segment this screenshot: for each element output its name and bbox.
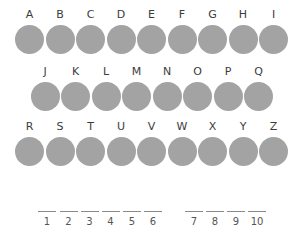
letter-tile-p[interactable]: P <box>214 66 243 112</box>
letter-tile-s[interactable]: S <box>46 121 75 167</box>
letter-disc[interactable] <box>76 137 105 166</box>
letter-disc[interactable] <box>168 137 197 166</box>
answer-blank-line <box>38 211 56 212</box>
answer-slot-9[interactable]: 9 <box>227 211 245 237</box>
answer-blank-line <box>185 211 203 212</box>
letter-label: Z <box>259 121 288 133</box>
letter-tile-u[interactable]: U <box>107 121 136 167</box>
letter-disc[interactable] <box>46 25 75 54</box>
letter-disc[interactable] <box>61 82 90 111</box>
answer-blank-line <box>123 211 141 212</box>
answer-blank-line <box>60 211 78 212</box>
letter-label: D <box>107 9 136 21</box>
letter-label: L <box>92 66 121 78</box>
letter-disc[interactable] <box>137 137 166 166</box>
letter-label: G <box>198 9 227 21</box>
letter-tile-r[interactable]: R <box>15 121 44 167</box>
letter-label: K <box>61 66 90 78</box>
letter-disc[interactable] <box>153 82 182 111</box>
letter-disc[interactable] <box>107 25 136 54</box>
answer-slot-4[interactable]: 4 <box>102 211 120 237</box>
letter-disc[interactable] <box>137 25 166 54</box>
letter-disc[interactable] <box>76 25 105 54</box>
letter-label: X <box>198 121 227 133</box>
answer-blank-line <box>206 211 224 212</box>
letter-tile-e[interactable]: E <box>137 9 166 55</box>
letter-disc[interactable] <box>168 25 197 54</box>
letter-label: R <box>15 121 44 133</box>
answer-slot-number: 6 <box>140 216 166 228</box>
letter-label: E <box>137 9 166 21</box>
letter-disc[interactable] <box>15 25 44 54</box>
answer-blank-line <box>144 211 162 212</box>
letter-label: V <box>137 121 166 133</box>
letter-label: T <box>76 121 105 133</box>
answer-slot-10[interactable]: 10 <box>248 211 266 237</box>
answer-blank-line <box>81 211 99 212</box>
letter-label: W <box>168 121 197 133</box>
letter-label: O <box>183 66 212 78</box>
letter-disc[interactable] <box>259 137 288 166</box>
letter-puzzle-board: A B C D E F G H I J K L <box>0 0 297 239</box>
letter-tile-x[interactable]: X <box>198 121 227 167</box>
letter-tile-a[interactable]: A <box>15 9 44 55</box>
letter-disc[interactable] <box>107 137 136 166</box>
letter-tile-m[interactable]: M <box>122 66 151 112</box>
letter-tile-f[interactable]: F <box>168 9 197 55</box>
letter-label: S <box>46 121 75 133</box>
letter-label: I <box>259 9 288 21</box>
letter-disc[interactable] <box>259 25 288 54</box>
letter-tile-c[interactable]: C <box>76 9 105 55</box>
letter-label: M <box>122 66 151 78</box>
letter-tile-l[interactable]: L <box>92 66 121 112</box>
letter-tile-v[interactable]: V <box>137 121 166 167</box>
letter-tile-j[interactable]: J <box>31 66 60 112</box>
letter-label: C <box>76 9 105 21</box>
answer-blank-line <box>227 211 245 212</box>
letter-disc[interactable] <box>229 137 258 166</box>
letter-tile-k[interactable]: K <box>61 66 90 112</box>
answer-slot-8[interactable]: 8 <box>206 211 224 237</box>
letter-label: B <box>46 9 75 21</box>
letter-disc[interactable] <box>214 82 243 111</box>
letter-label: J <box>31 66 60 78</box>
answer-slot-6[interactable]: 6 <box>144 211 162 237</box>
letter-label: F <box>168 9 197 21</box>
letter-label: P <box>214 66 243 78</box>
answer-blank-line <box>102 211 120 212</box>
letter-disc[interactable] <box>15 137 44 166</box>
letter-tile-g[interactable]: G <box>198 9 227 55</box>
letter-tile-i[interactable]: I <box>259 9 288 55</box>
letter-disc[interactable] <box>198 137 227 166</box>
answer-slot-2[interactable]: 2 <box>60 211 78 237</box>
letter-tile-n[interactable]: N <box>153 66 182 112</box>
answer-slot-5[interactable]: 5 <box>123 211 141 237</box>
letter-disc[interactable] <box>92 82 121 111</box>
answer-slot-3[interactable]: 3 <box>81 211 99 237</box>
letter-label: U <box>107 121 136 133</box>
letter-label: Q <box>244 66 273 78</box>
answer-slot-1[interactable]: 1 <box>38 211 56 237</box>
answer-blank-line <box>248 211 266 212</box>
letter-disc[interactable] <box>122 82 151 111</box>
letter-label: H <box>229 9 258 21</box>
answer-slot-7[interactable]: 7 <box>185 211 203 237</box>
letter-disc[interactable] <box>183 82 212 111</box>
letter-label: N <box>153 66 182 78</box>
letter-disc[interactable] <box>244 82 273 111</box>
letter-tile-b[interactable]: B <box>46 9 75 55</box>
letter-tile-y[interactable]: Y <box>229 121 258 167</box>
letter-tile-t[interactable]: T <box>76 121 105 167</box>
letter-disc[interactable] <box>198 25 227 54</box>
letter-disc[interactable] <box>229 25 258 54</box>
letter-tile-d[interactable]: D <box>107 9 136 55</box>
letter-tile-w[interactable]: W <box>168 121 197 167</box>
letter-tile-h[interactable]: H <box>229 9 258 55</box>
letter-tile-z[interactable]: Z <box>259 121 288 167</box>
letter-tile-o[interactable]: O <box>183 66 212 112</box>
letter-label: A <box>15 9 44 21</box>
letter-disc[interactable] <box>46 137 75 166</box>
letter-tile-q[interactable]: Q <box>244 66 273 112</box>
letter-label: Y <box>229 121 258 133</box>
letter-disc[interactable] <box>31 82 60 111</box>
